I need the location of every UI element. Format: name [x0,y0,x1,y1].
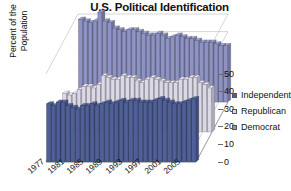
legend-item[interactable]: Republican [232,103,291,119]
x-axis-tick: 1997 [123,157,143,176]
legend-swatch-icon [232,93,237,98]
x-axis-tick: 1985 [65,157,85,176]
legend-swatch-icon [232,109,237,114]
x-axis-tick: 1977 [26,157,46,176]
legend-item[interactable]: Independent [232,87,291,103]
chart-container: U.S. Political Identification Percent of… [0,0,291,191]
legend-swatch-icon [232,125,237,130]
x-axis-tick: 1981 [46,157,66,176]
x-axis-tick: 1993 [104,157,124,176]
x-axis-tick: 2005 [162,157,182,176]
chart-legend: IndependentRepublicanDemocrat [232,87,291,135]
x-axis-tick: 1989 [84,157,104,176]
x-axis-tick: 2001 [143,157,163,176]
legend-item-label: Democrat [241,122,280,132]
legend-item[interactable]: Democrat [232,119,291,135]
legend-item-label: Independent [241,90,291,100]
legend-item-label: Republican [241,106,286,116]
